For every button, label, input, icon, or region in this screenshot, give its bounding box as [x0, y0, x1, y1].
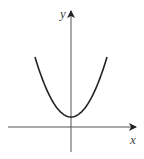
parabola-plot: x y — [0, 0, 144, 159]
x-axis-label: x — [129, 132, 136, 147]
y-axis-label: y — [58, 6, 66, 21]
